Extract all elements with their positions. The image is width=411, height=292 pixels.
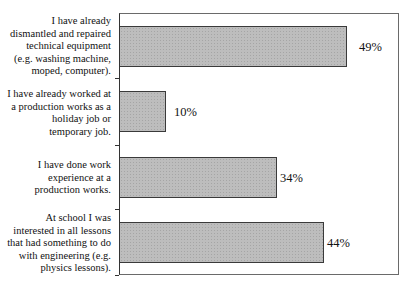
value-label: 34% <box>280 171 303 185</box>
value-label: 49% <box>359 40 382 54</box>
label-line: experience at a <box>0 172 111 185</box>
value-label: 44% <box>327 236 350 250</box>
bar <box>120 157 277 198</box>
label-line: technical equipment <box>0 40 111 53</box>
label-line: physics lessons). <box>0 262 111 275</box>
category-label-holiday-job: I have already worked at a production wo… <box>0 88 111 138</box>
label-line: moped, computer). <box>0 65 111 78</box>
bar <box>120 222 324 263</box>
label-line: temporary job. <box>0 126 111 139</box>
label-line: I have already worked at <box>0 88 111 101</box>
label-line: holiday job or <box>0 113 111 126</box>
label-line: interested in all lessons <box>0 225 111 238</box>
axis-tick <box>115 145 119 146</box>
label-line: I have already <box>0 15 111 28</box>
category-label-work-experience: I have done work experience at a product… <box>0 159 111 197</box>
bar <box>120 26 347 67</box>
value-label: 10% <box>174 105 197 119</box>
bar <box>120 91 166 132</box>
label-line: (e.g. washing machine, <box>0 53 111 66</box>
label-line: that had something to do <box>0 237 111 250</box>
label-line: a production works as a <box>0 101 111 114</box>
category-label-engineering-lessons: At school I was interested in all lesson… <box>0 212 111 275</box>
label-line: dismantled and repaired <box>0 28 111 41</box>
axis-tick <box>115 275 119 276</box>
label-line: with engineering (e.g. <box>0 250 111 263</box>
label-line: I have done work <box>0 159 111 172</box>
label-line: production works. <box>0 184 111 197</box>
category-label-equipment-repair: I have already dismantled and repaired t… <box>0 15 111 78</box>
axis-tick <box>115 209 119 210</box>
label-line: At school I was <box>0 212 111 225</box>
axis-tick <box>115 78 119 79</box>
